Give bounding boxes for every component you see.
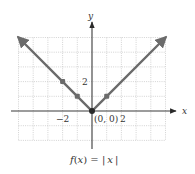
y-tick-label-2: 2 [82, 77, 88, 87]
function-formula: f(x) = |x| [69, 154, 118, 166]
x-axis-label: x [182, 106, 187, 116]
data-point [104, 94, 109, 99]
y-axis-label: y [87, 11, 94, 21]
x-tick-label-2: 2 [120, 114, 126, 124]
abs-value-graph: x y −2 2 (0, 0) 2 f(x) = |x| [0, 0, 195, 174]
origin-label: (0, 0) [94, 114, 118, 124]
x-tick-label-neg2: −2 [56, 114, 69, 124]
data-point [75, 94, 80, 99]
data-point [60, 79, 65, 84]
